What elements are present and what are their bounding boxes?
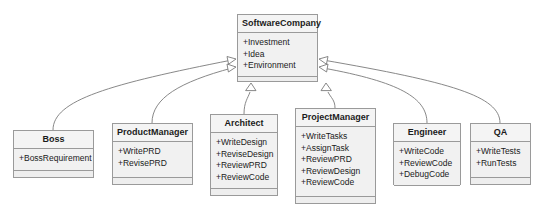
- class-operations-projectmanager: [296, 197, 375, 203]
- class-member: +DebugCode: [399, 169, 455, 181]
- class-operations-boss: [14, 171, 93, 177]
- uml-class-productmanager[interactable]: ProductManager +WritePRD +RevisePRD: [112, 123, 193, 185]
- class-operations-productmanager: [113, 178, 192, 184]
- uml-class-softwarecompany[interactable]: SoftwareCompany +Investment +Idea +Envir…: [237, 14, 318, 82]
- class-member: +ReviewCode: [399, 158, 455, 170]
- class-operations-architect: [211, 189, 277, 195]
- class-members-architect: +WriteDesign +ReviseDesign +ReviewPRD +R…: [211, 133, 277, 189]
- class-operations-softwarecompany: [238, 77, 317, 82]
- class-members-productmanager: +WritePRD +RevisePRD: [113, 142, 192, 178]
- class-member: +ReviewPRD: [301, 154, 370, 166]
- class-name-architect: Architect: [211, 115, 277, 133]
- class-operations-qa: [471, 178, 530, 184]
- uml-class-projectmanager[interactable]: ProjectManager +WriteTasks +AssignTask +…: [295, 108, 376, 204]
- class-member: +WriteCode: [399, 146, 455, 158]
- class-member: +BossRequirement: [19, 153, 88, 165]
- class-member: +Environment: [243, 60, 312, 72]
- arrowhead-engineer: [319, 64, 328, 72]
- class-member: +ReviewCode: [216, 172, 272, 184]
- uml-class-qa[interactable]: QA +WriteTests +RunTests: [470, 123, 531, 185]
- class-name-projectmanager: ProjectManager: [296, 109, 375, 127]
- class-members-softwarecompany: +Investment +Idea +Environment: [238, 33, 317, 77]
- arrowhead-architect: [246, 83, 256, 91]
- class-member: +ReviseDesign: [216, 149, 272, 161]
- class-members-qa: +WriteTests +RunTests: [471, 142, 530, 178]
- class-members-engineer: +WriteCode +ReviewCode +DebugCode: [394, 142, 460, 186]
- class-member: +ReviewDesign: [301, 166, 370, 178]
- class-name-boss: Boss: [14, 131, 93, 149]
- class-member: +WritePRD: [118, 146, 187, 158]
- edge-projectmanager-to-softwarecompany: [328, 92, 335, 108]
- class-member: +WriteDesign: [216, 137, 272, 149]
- arrowhead-boss: [227, 57, 236, 65]
- class-members-projectmanager: +WriteTasks +AssignTask +ReviewPRD +Revi…: [296, 127, 375, 197]
- class-member: +WriteTests: [476, 146, 525, 158]
- edge-architect-to-softwarecompany: [244, 92, 250, 114]
- class-name-productmanager: ProductManager: [113, 124, 192, 142]
- class-member: +WriteTasks: [301, 131, 370, 143]
- arrowhead-productmanager: [227, 64, 236, 72]
- arrowhead-projectmanager: [321, 83, 331, 91]
- class-member: +Idea: [243, 49, 312, 61]
- class-name-engineer: Engineer: [394, 124, 460, 142]
- edge-boss-to-softwarecompany: [53, 60, 232, 130]
- uml-class-architect[interactable]: Architect +WriteDesign +ReviseDesign +Re…: [210, 114, 278, 196]
- arrowhead-qa: [319, 57, 328, 65]
- class-member: +ReviewPRD: [216, 160, 272, 172]
- class-member: +AssignTask: [301, 143, 370, 155]
- uml-class-diagram-canvas: SoftwareCompany +Investment +Idea +Envir…: [0, 0, 551, 210]
- class-member: +ReviewCode: [301, 177, 370, 189]
- class-member: +RevisePRD: [118, 158, 187, 170]
- class-name-qa: QA: [471, 124, 530, 142]
- uml-class-engineer[interactable]: Engineer +WriteCode +ReviewCode +DebugCo…: [393, 123, 461, 185]
- uml-class-boss[interactable]: Boss +BossRequirement: [13, 130, 94, 178]
- class-member: +Investment: [243, 37, 312, 49]
- class-name-softwarecompany: SoftwareCompany: [238, 15, 317, 33]
- class-member: +RunTests: [476, 158, 525, 170]
- class-members-boss: +BossRequirement: [14, 149, 93, 171]
